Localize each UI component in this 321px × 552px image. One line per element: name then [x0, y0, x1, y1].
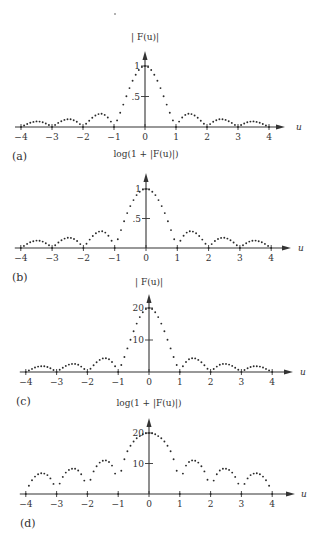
data-point — [222, 118, 224, 120]
data-point — [157, 435, 159, 437]
data-point — [201, 239, 203, 241]
data-point — [200, 120, 202, 122]
data-point — [90, 368, 92, 370]
data-point — [215, 119, 217, 121]
data-point — [122, 104, 124, 106]
data-point — [51, 126, 53, 128]
data-point — [223, 237, 225, 239]
data-point — [192, 231, 194, 233]
data-point — [206, 126, 208, 128]
figure-canvas: | F(u)|u−4−3−2−101234.51(a)log(1 + |F(u)… — [0, 0, 321, 552]
data-point — [136, 437, 138, 439]
data-point — [151, 191, 153, 193]
panel-label: (a) — [12, 150, 27, 163]
y-axis-arrow-icon — [144, 173, 149, 182]
x-tick-label: 3 — [239, 377, 245, 387]
data-point — [34, 367, 36, 369]
data-point — [156, 80, 158, 82]
data-point — [233, 242, 235, 244]
data-point — [160, 323, 162, 325]
data-point — [37, 366, 39, 368]
data-point — [154, 194, 156, 196]
data-point — [120, 470, 122, 472]
data-point — [214, 240, 216, 242]
data-point — [256, 121, 258, 123]
data-point — [268, 126, 270, 128]
data-point — [188, 358, 190, 360]
data-point — [133, 441, 135, 443]
data-point — [107, 235, 109, 237]
data-point — [225, 363, 227, 365]
data-point — [239, 247, 241, 249]
data-point — [26, 123, 28, 125]
data-point — [136, 323, 138, 325]
data-point — [259, 122, 261, 124]
data-point — [251, 240, 253, 242]
data-point — [56, 493, 58, 495]
x-axis-arrow-icon — [286, 492, 295, 497]
data-point — [271, 493, 273, 495]
data-point — [120, 364, 122, 366]
data-point — [145, 308, 147, 310]
panel-label: (c) — [16, 395, 31, 408]
data-point — [225, 119, 227, 121]
x-tick-label: 4 — [269, 377, 275, 387]
data-point — [145, 432, 147, 434]
data-point — [126, 347, 128, 349]
data-point — [37, 473, 39, 475]
data-point — [102, 357, 104, 359]
data-point — [90, 479, 92, 481]
data-point — [154, 311, 156, 313]
data-point — [135, 74, 137, 76]
panel-label: (d) — [20, 517, 36, 530]
data-point — [51, 247, 53, 249]
data-point — [53, 483, 55, 485]
data-point — [183, 235, 185, 237]
data-point — [92, 235, 94, 237]
data-point — [77, 364, 79, 366]
x-tick-label: 1 — [174, 253, 180, 263]
data-point — [265, 125, 267, 127]
data-point — [157, 316, 159, 318]
x-tick-label: 2 — [206, 253, 212, 263]
data-point — [93, 364, 95, 366]
data-point — [268, 369, 270, 371]
data-point — [262, 476, 264, 478]
data-point — [71, 468, 73, 470]
x-tick-label: −2 — [77, 253, 90, 263]
data-point — [86, 243, 88, 245]
data-point — [240, 124, 242, 126]
data-point — [139, 191, 141, 193]
data-point — [86, 371, 88, 373]
data-point — [148, 307, 150, 309]
y-tick-label: .5 — [132, 214, 141, 224]
data-point — [160, 437, 162, 439]
data-point — [129, 87, 131, 89]
data-point — [191, 113, 193, 115]
data-point — [169, 112, 171, 114]
data-point — [62, 367, 64, 369]
data-point — [108, 358, 110, 360]
data-point — [28, 369, 30, 371]
data-point — [222, 363, 224, 365]
x-axis-label: u — [296, 122, 302, 132]
data-point — [228, 120, 230, 122]
x-tick-label: 3 — [237, 253, 243, 263]
data-point — [113, 126, 115, 128]
data-point — [213, 480, 215, 482]
data-point — [163, 441, 165, 443]
x-tick-label: 3 — [235, 132, 241, 142]
panel-a: | F(u)|u−4−3−2−101234.51(a) — [12, 32, 302, 163]
data-point — [198, 235, 200, 237]
data-point — [265, 479, 267, 481]
data-point — [65, 472, 67, 474]
data-point — [270, 247, 272, 249]
data-point — [29, 241, 31, 243]
data-point — [88, 120, 90, 122]
x-tick-label: 2 — [208, 499, 214, 509]
data-point — [49, 367, 51, 369]
data-point — [123, 220, 125, 222]
data-point — [79, 123, 81, 125]
data-point — [23, 245, 25, 247]
y-axis-arrow-icon — [143, 51, 148, 60]
